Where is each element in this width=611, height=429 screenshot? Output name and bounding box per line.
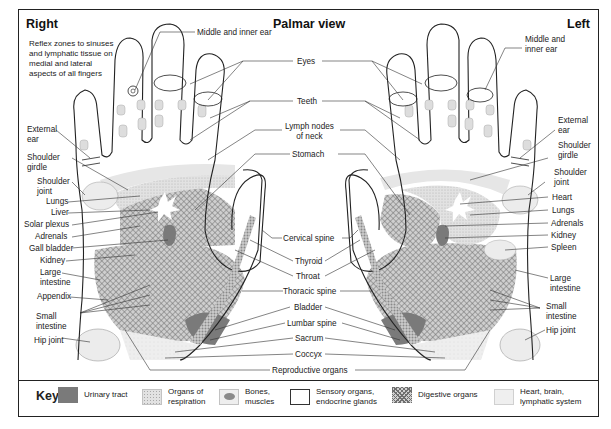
label-teeth: Teeth [297,97,317,107]
label-left-small-intestine: Smallintestine [546,302,577,321]
label-right-middle-inner-ear: Middle and inner ear [197,28,272,38]
label-reproductive-organs: Reproductive organs [272,366,348,376]
right-eye-zone-2 [194,92,222,106]
key-label: Digestive organs [418,390,478,400]
left-eye-zone-2 [389,92,417,106]
key-label: Bones,muscles [245,387,274,406]
respiration-swatch [142,389,162,405]
note-line: medial and lateral [29,59,114,69]
label-eyes: Eyes [297,57,315,67]
title-left: Left [567,17,590,31]
label-right-small-intestine: Smallintestine [36,312,67,331]
label-right-gall-bladder: Gall bladder [29,244,73,254]
label-left-middle-inner-ear: Middle andinner ear [525,35,565,54]
key-item-urinary-tract: Urinary tract [58,387,128,403]
key-item-organs-of-respiration: Organs ofrespiration [142,387,205,406]
legend-key: Key Urinary tract Organs ofrespiration B… [18,380,599,418]
label-left-large-intestine: Largeintestine [550,274,581,293]
label-cervical-spine: Cervical spine [283,234,334,244]
label-left-shoulder-girdle: Shouldergirdle [558,141,591,160]
label-coccyx: Coccyx [295,350,322,360]
key-item-digestive-organs: Digestive organs [392,387,478,403]
left-hip-joint [500,329,540,361]
label-left-kidney: Kidney [551,231,576,241]
label-right-adrenals: Adrenals [35,232,67,242]
left-hand [346,24,540,361]
note-line: and lymphatic tissue on [29,49,114,59]
label-right-shoulder-girdle: Shouldergirdle [27,153,60,172]
label-left-lungs: Lungs [552,206,574,216]
label-left-adrenals: Adrenals [551,219,583,229]
key-item-heart-brain-lymphatic: Heart, brain,lymphatic system [494,387,581,406]
label-left-heart: Heart [552,193,572,203]
digestive-swatch [392,387,412,403]
label-bladder: Bladder [294,303,322,313]
label-lymph-nodes: Lymph nodesof neck [285,122,334,141]
label-lumbar-spine: Lumbar spine [287,319,337,329]
key-item-sensory-organs: Sensory organs,endocrine glands [290,387,377,406]
label-throat: Throat [296,272,320,282]
label-right-large-intestine: Largeintestine [40,268,71,287]
title-right: Right [26,17,58,31]
label-thoracic-spine: Thoracic spine [283,287,336,297]
key-label: Heart, brain,lymphatic system [520,387,581,406]
right-shoulder-joint [82,182,118,210]
label-right-external-ear: Externalear [27,125,57,144]
note-line: aspects of all fingers [29,69,114,79]
right-ear-zone [128,86,138,96]
key-title: Key [36,389,59,403]
left-eye-zone [425,75,457,91]
label-right-kidney: Kidney [40,256,65,266]
label-right-hip-joint: Hip joint [34,336,64,346]
label-sacrum: Sacrum [295,334,323,344]
left-ear-zone [467,88,493,102]
heart-swatch [494,389,514,405]
label-left-external-ear: Externalear [558,116,588,135]
label-thyroid: Thyroid [295,257,322,267]
reflex-zone-note: Reflex zones to sinuses and lymphatic ti… [29,39,114,79]
title-palmar-view: Palmar view [273,17,345,31]
sensory-swatch [290,389,310,405]
label-right-shoulder-joint: Shoulderjoint [37,177,70,196]
label-left-shoulder-joint: Shoulderjoint [554,168,587,187]
note-line: Reflex zones to sinuses [29,39,114,49]
label-left-spleen: Spleen [551,243,577,253]
right-eye-zone [154,75,186,91]
key-label: Sensory organs,endocrine glands [316,387,377,406]
urinary-tract-swatch [58,387,78,403]
label-stomach: Stomach [292,150,324,160]
key-label: Urinary tract [84,390,128,400]
right-hip-joint [76,329,120,361]
label-right-lungs: Lungs [46,197,68,207]
key-item-bones-muscles: Bones,muscles [219,387,274,406]
label-right-solar-plexus: Solar plexus [24,220,69,230]
bones-swatch [219,389,239,405]
key-label: Organs ofrespiration [168,387,205,406]
label-right-appendix: Appendix [37,292,71,302]
left-spleen-zone [484,240,516,260]
left-adrenal-kidney [436,225,449,246]
label-left-hip-joint: Hip joint [546,326,576,336]
label-right-liver: Liver [51,208,69,218]
